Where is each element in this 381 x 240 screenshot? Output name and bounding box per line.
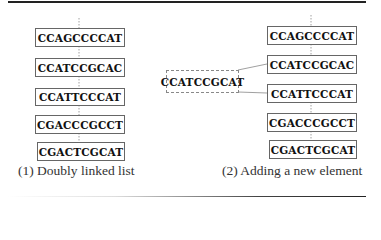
list-node: CCATTCCCAT [35,88,125,106]
list-node: CGACCCGCCT [35,115,125,134]
list-node: CGACCCGCCT [267,113,357,132]
list-node: CCAGCCCCAT [35,28,125,47]
new-node-dashed: CCATCCGCAT [166,70,239,93]
caption-panel-1: (1) Doubly linked list [18,163,135,179]
caption-panel-2: (2) Adding a new element [222,163,362,179]
list-node: CGACTCGCAT [269,140,357,159]
list-node: CGACTCGCAT [37,142,125,161]
bottom-rule [8,196,366,197]
list-node: CCATCCGCAC [267,55,357,74]
list-node: CCATTCCCAT [267,84,357,103]
list-node: CCAGCCCCAT [267,26,357,45]
list-node: CCATCCGCAC [35,58,125,77]
